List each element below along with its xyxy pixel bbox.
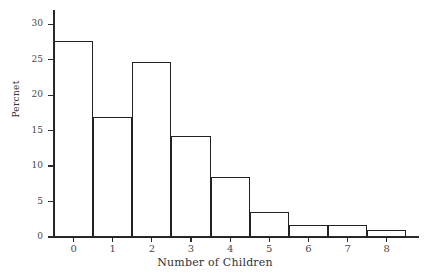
x-tick-label: 2 bbox=[140, 244, 164, 254]
y-tick-label: 15 bbox=[17, 126, 43, 135]
x-tick-label: 0 bbox=[62, 244, 86, 254]
x-tick-label: 1 bbox=[101, 244, 125, 254]
histogram-chart: Percnet 051015202530 012345678 Number of… bbox=[0, 0, 430, 279]
x-tick-label: 8 bbox=[375, 244, 399, 254]
y-tick bbox=[48, 130, 53, 131]
bar bbox=[367, 230, 406, 238]
bar bbox=[250, 212, 289, 238]
y-tick-label: 0 bbox=[17, 232, 43, 241]
x-tick-label: 6 bbox=[296, 244, 320, 254]
bar bbox=[211, 177, 250, 238]
y-tick bbox=[48, 236, 53, 237]
y-tick bbox=[48, 95, 53, 96]
bar bbox=[289, 225, 328, 238]
y-tick bbox=[48, 59, 53, 60]
x-tick-label: 5 bbox=[257, 244, 281, 254]
bar bbox=[93, 117, 132, 238]
y-tick-label: 30 bbox=[17, 19, 43, 28]
x-axis-label: Number of Children bbox=[0, 256, 430, 269]
bar bbox=[132, 62, 171, 238]
y-tick bbox=[48, 165, 53, 166]
y-tick-label: 5 bbox=[17, 197, 43, 206]
x-tick-label: 7 bbox=[336, 244, 360, 254]
y-tick bbox=[48, 24, 53, 25]
y-tick-label: 10 bbox=[17, 161, 43, 170]
plot-area: 051015202530 012345678 bbox=[53, 10, 419, 237]
bar bbox=[328, 225, 367, 238]
x-tick-label: 3 bbox=[179, 244, 203, 254]
bar bbox=[54, 41, 93, 238]
y-tick-label: 20 bbox=[17, 90, 43, 99]
y-tick-label: 25 bbox=[17, 55, 43, 64]
bar bbox=[171, 136, 210, 238]
x-tick-label: 4 bbox=[218, 244, 242, 254]
y-tick bbox=[48, 201, 53, 202]
